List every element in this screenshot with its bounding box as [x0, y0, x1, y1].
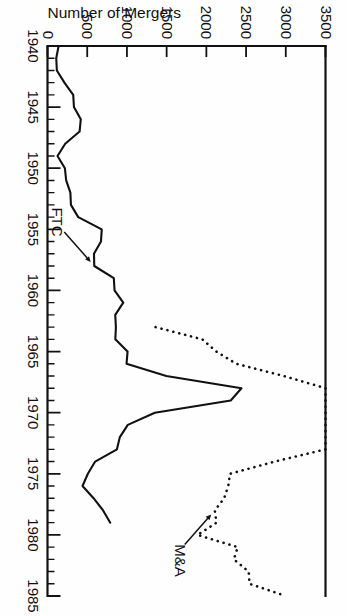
x-tick-label: 1965 — [24, 335, 41, 368]
annotation-ma: M&A — [171, 515, 210, 577]
axis-frame — [47, 46, 325, 596]
y-tick-label: 2000 — [198, 6, 215, 39]
rotated-figure-wrapper: 0500100015002000250030003500 19401945195… — [0, 0, 347, 616]
mergers-line-chart: 0500100015002000250030003500 19401945195… — [0, 0, 347, 616]
x-tick-label: 1955 — [24, 213, 41, 246]
annotation-ftc-arrow — [64, 232, 89, 260]
x-tick-label: 1980 — [24, 518, 41, 551]
x-tick-label: 1950 — [24, 152, 41, 185]
y-axis-title: Number of Mergers — [47, 4, 181, 21]
x-tick-label: 1960 — [24, 274, 41, 307]
chart-axes — [47, 46, 325, 596]
x-tick-label: 1970 — [24, 396, 41, 429]
annotation-ftc-label: FTC — [49, 207, 66, 236]
x-tick-label: 1945 — [24, 90, 41, 123]
chart-figure: 0500100015002000250030003500 19401945195… — [0, 0, 347, 616]
x-axis-ticks: 1940194519501955196019651970197519801985 — [24, 29, 60, 612]
figure-root: 0500100015002000250030003500 19401945195… — [0, 0, 347, 616]
y-tick-label: 2500 — [238, 6, 255, 39]
x-tick-label: 1985 — [24, 579, 41, 612]
y-tick-label: 3500 — [317, 6, 334, 39]
x-tick-label: 1975 — [24, 457, 41, 490]
annotation-ma-label: M&A — [171, 544, 188, 577]
y-tick-label: 3000 — [277, 6, 294, 39]
y-tick-label: 0 — [39, 31, 56, 39]
annotation-ftc: FTC — [49, 207, 90, 262]
series-ftc-line — [56, 46, 241, 523]
x-tick-label: 1940 — [24, 29, 41, 62]
